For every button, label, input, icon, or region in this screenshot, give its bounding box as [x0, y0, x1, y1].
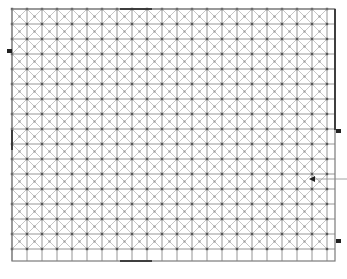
right-marker-upper-icon	[336, 129, 341, 133]
pointer-arrow-icon	[309, 176, 347, 182]
grid-diagram	[0, 0, 347, 279]
left-marker-icon	[7, 49, 12, 53]
right-marker-lower-icon	[336, 239, 341, 243]
